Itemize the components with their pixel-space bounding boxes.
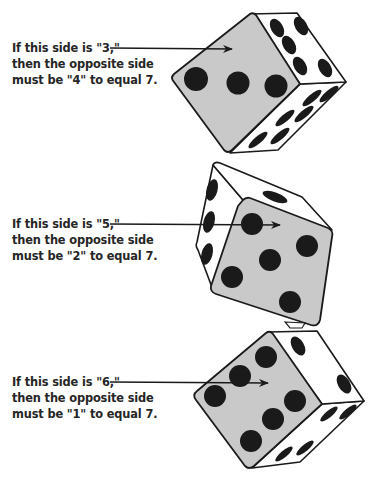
caption-five-line-1: If this side is "5,"	[12, 216, 157, 232]
caption-five-line-2: then the opposite side	[12, 232, 157, 248]
caption-six-line-2: then the opposite side	[12, 390, 157, 406]
caption-three-line-3: must be "4" to equal 7.	[12, 72, 157, 88]
caption-three-line-2: then the opposite side	[12, 56, 157, 72]
die-six	[194, 322, 364, 468]
caption-three-line-1: If this side is "3,"	[12, 40, 157, 56]
caption-three: If this side is "3," then the opposite s…	[12, 40, 157, 88]
caption-six: If this side is "6," then the opposite s…	[12, 374, 157, 422]
caption-six-line-3: must be "1" to equal 7.	[12, 406, 157, 422]
caption-five: If this side is "5," then the opposite s…	[12, 216, 157, 264]
caption-six-line-1: If this side is "6,"	[12, 374, 157, 390]
die-three	[172, 13, 346, 153]
caption-five-line-3: must be "2" to equal 7.	[12, 248, 157, 264]
die-six-top-fragment	[285, 322, 305, 328]
die-five	[196, 162, 332, 325]
